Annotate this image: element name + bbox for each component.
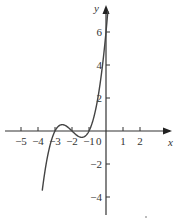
x-axis-arrow-icon bbox=[163, 128, 172, 135]
x-axis-label: x bbox=[167, 136, 173, 148]
x-tick-label: 1 bbox=[120, 135, 126, 147]
y-tick-label: −2 bbox=[90, 158, 102, 170]
y-axis-arrow-icon bbox=[103, 5, 110, 14]
origin-label: 0 bbox=[96, 135, 102, 147]
cubic-function-graph: −5−4−3−2−112 642−2−4 x y 0 bbox=[0, 0, 178, 220]
stray-mark bbox=[145, 216, 147, 218]
y-ticks: 642−2−4 bbox=[90, 26, 110, 203]
x-tick-label: 2 bbox=[137, 135, 143, 147]
axes bbox=[5, 5, 172, 215]
y-tick-label: −4 bbox=[90, 191, 102, 203]
y-tick-label: 6 bbox=[97, 26, 103, 38]
y-axis-label: y bbox=[93, 2, 99, 14]
x-tick-label: −4 bbox=[32, 135, 44, 147]
x-tick-label: −5 bbox=[15, 135, 27, 147]
x-tick-label: −2 bbox=[66, 135, 78, 147]
